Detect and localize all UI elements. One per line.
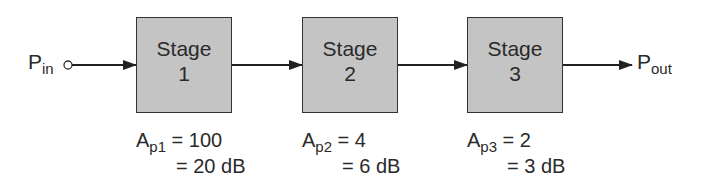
gain-3-subscript: p3 <box>480 138 497 155</box>
stage-3-block: Stage 3 <box>467 17 563 113</box>
input-symbol: P <box>28 50 42 73</box>
stage-1-block: Stage 1 <box>136 17 232 113</box>
stage-2-title: Stage <box>323 36 378 61</box>
stage-2-gain: Ap2 = 4 = 6 dB <box>302 128 400 178</box>
stage-2-number: 2 <box>344 61 356 86</box>
output-label: Pout <box>637 50 672 74</box>
stage-3-number: 3 <box>509 61 521 86</box>
stage-3-title: Stage <box>488 36 543 61</box>
input-terminal-icon <box>64 61 72 69</box>
gain-2-subscript: p2 <box>315 138 332 155</box>
stage-1-number: 1 <box>178 61 190 86</box>
gain-3-db: = 3 dB <box>467 154 565 178</box>
stage-3-gain: Ap3 = 2 = 3 dB <box>467 128 565 178</box>
input-subscript: in <box>42 60 54 77</box>
output-subscript: out <box>651 60 672 77</box>
gain-1-symbol: A <box>136 129 149 151</box>
stage-1-gain: Ap1 = 100 = 20 dB <box>136 128 246 178</box>
gain-1-ratio: = 100 <box>172 129 223 151</box>
stage-1-title: Stage <box>157 36 212 61</box>
gain-2-ratio: = 4 <box>338 129 366 151</box>
gain-2-db: = 6 dB <box>302 154 400 178</box>
input-label: Pin <box>28 50 54 74</box>
gain-1-db: = 20 dB <box>136 154 246 178</box>
gain-1-subscript: p1 <box>149 138 166 155</box>
gain-3-ratio: = 2 <box>503 129 531 151</box>
gain-3-symbol: A <box>467 129 480 151</box>
output-symbol: P <box>637 50 651 73</box>
stage-2-block: Stage 2 <box>302 17 398 113</box>
gain-2-symbol: A <box>302 129 315 151</box>
